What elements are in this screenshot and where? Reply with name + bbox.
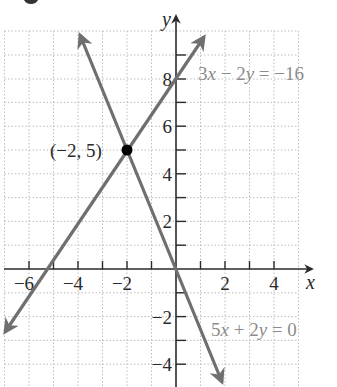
y-tick-label: 6 [163,116,173,137]
x-tick-label: 2 [220,273,230,294]
coordinate-plane: −6 −4 −2 2 4 8 6 4 2 −2 −4 y x (−2, 5) 3… [0,0,337,387]
clipped-glyph-fragment [24,0,38,4]
equation-label-1: 3x − 2y = −16 [198,63,304,84]
y-ticks [176,55,186,364]
line-3x-minus-2y-eq-neg16 [5,37,204,332]
equation-label-2: 5x + 2y = 0 [211,319,297,340]
x-tick-label: −2 [112,273,132,294]
y-tick-label: 2 [163,211,173,232]
y-tick-label: 4 [163,164,173,185]
x-tick-label: 4 [269,273,279,294]
y-axis-label: y [160,8,171,31]
y-tick-label: −4 [152,354,173,375]
intersection-label: (−2, 5) [50,140,102,162]
x-tick-label: −4 [63,273,84,294]
x-axis-label: x [305,271,315,293]
intersection-point [122,145,133,156]
y-tick-label: −2 [152,307,172,328]
x-ticks [29,261,274,269]
